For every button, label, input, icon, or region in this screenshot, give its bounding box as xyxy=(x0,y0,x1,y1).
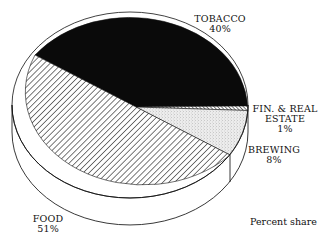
label-food-pct: 51% xyxy=(28,224,68,234)
label-fin-real-estate: FIN. & REAL ESTATE 1% xyxy=(252,104,318,134)
percent-share-note: Percent share xyxy=(250,216,317,227)
label-fin-pct: 1% xyxy=(252,124,318,134)
label-tobacco: TOBACCO 40% xyxy=(185,14,255,34)
pie-top-face xyxy=(12,12,248,198)
label-brewing: BREWING 8% xyxy=(246,145,302,165)
label-tobacco-pct: 40% xyxy=(185,24,255,34)
label-food: FOOD 51% xyxy=(28,214,68,234)
label-brewing-pct: 8% xyxy=(246,155,302,165)
